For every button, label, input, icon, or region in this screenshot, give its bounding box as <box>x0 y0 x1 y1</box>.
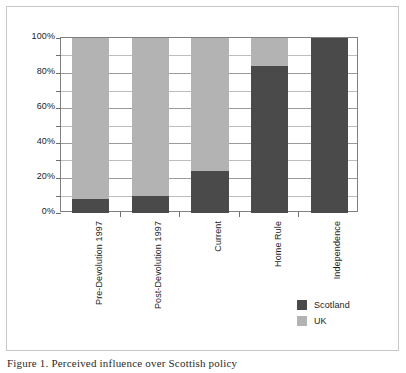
bar-segment-uk <box>191 38 228 171</box>
legend-item: Scotland <box>297 297 350 313</box>
legend-swatch-scotland <box>297 300 307 310</box>
x-axis-category-label: Independence <box>332 221 342 279</box>
bar-segment-scotland <box>132 196 169 214</box>
bar-group <box>132 38 169 211</box>
y-axis-tick-label: 100% <box>32 31 55 41</box>
y-axis-tick <box>56 108 61 109</box>
y-axis-tick <box>56 73 61 74</box>
y-axis-tick <box>56 213 61 214</box>
bar-segment-scotland <box>311 38 348 213</box>
x-axis-tick <box>298 212 299 217</box>
y-axis-tick <box>56 38 61 39</box>
x-axis-category-label: Post-Devolution 1997 <box>153 221 163 309</box>
figure-caption: Figure 1. Perceived influence over Scott… <box>7 357 399 373</box>
x-axis-tick <box>120 212 121 217</box>
x-axis-category-label: Home Rule <box>273 221 283 267</box>
chart-legend: ScotlandUK <box>297 297 350 329</box>
bar-group <box>251 38 288 211</box>
x-axis-category-label: Current <box>213 221 223 252</box>
y-axis-tick-label: 0% <box>42 206 55 216</box>
bar-segment-scotland <box>72 199 109 213</box>
y-axis-tick <box>56 91 61 92</box>
legend-item: UK <box>297 313 350 329</box>
x-axis-category-label: Pre-Devolution 1997 <box>94 221 104 305</box>
y-axis-tick-label: 20% <box>37 171 55 181</box>
y-axis-tick <box>56 178 61 179</box>
bar-segment-scotland <box>191 171 228 213</box>
bar-segment-uk <box>72 38 109 199</box>
legend-swatch-uk <box>297 316 307 326</box>
y-axis-tick <box>56 126 61 127</box>
bar-segment-scotland <box>251 66 288 213</box>
stacked-bar-chart: 100%80%60%40%20%0% Pre-Devolution 1997Po… <box>0 0 406 373</box>
y-axis-tick <box>56 196 61 197</box>
bar-segment-uk <box>132 38 169 196</box>
y-axis-tick <box>56 160 61 161</box>
y-axis-tick <box>56 143 61 144</box>
legend-item-label: Scotland <box>314 300 350 310</box>
y-axis-tick-label: 80% <box>37 66 55 76</box>
y-axis-tick-label: 40% <box>37 136 55 146</box>
legend-item-label: UK <box>314 316 327 326</box>
bar-group <box>72 38 109 211</box>
x-axis-tick <box>239 212 240 217</box>
x-axis-tick <box>179 212 180 217</box>
plot-area <box>60 37 358 212</box>
bar-segment-uk <box>251 38 288 66</box>
y-axis-tick-label: 60% <box>37 101 55 111</box>
y-axis-tick <box>56 55 61 56</box>
bar-group <box>191 38 228 211</box>
bar-group <box>311 38 348 211</box>
